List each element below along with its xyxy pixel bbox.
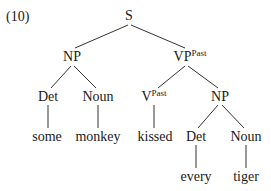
tree-node-np2: NP: [211, 90, 229, 104]
tree-node-w_tiger: tiger: [233, 170, 259, 184]
node-feature-superscript: Past: [191, 48, 206, 58]
tree-node-w_monkey: monkey: [75, 130, 120, 144]
tree-edge: [131, 25, 185, 48]
node-label: some: [32, 129, 62, 144]
node-label: NP: [63, 49, 81, 64]
node-label: monkey: [75, 129, 120, 144]
tree-node-noun2: Noun: [230, 130, 261, 144]
node-label: Noun: [82, 89, 113, 104]
node-label: NP: [211, 89, 229, 104]
node-label: VP: [174, 49, 192, 64]
node-label: tiger: [233, 169, 259, 184]
tree-edge: [51, 66, 71, 88]
node-label: every: [180, 169, 211, 184]
tree-edge: [188, 66, 218, 88]
tree-edge: [75, 25, 128, 48]
node-label: Det: [186, 129, 206, 144]
node-label: Det: [38, 89, 58, 104]
tree-node-w_some: some: [32, 130, 62, 144]
node-label: V: [141, 89, 151, 104]
tree-node-det2: Det: [186, 130, 206, 144]
node-label: Noun: [230, 129, 261, 144]
node-feature-superscript: Past: [152, 88, 167, 98]
tree-node-v: VPast: [141, 90, 166, 105]
tree-edge: [198, 105, 218, 128]
tree-node-noun1: Noun: [82, 90, 113, 104]
tree-edge: [222, 105, 244, 128]
tree-node-vp: VPPast: [174, 50, 207, 65]
tree-edge: [74, 66, 96, 88]
node-label: S: [125, 8, 133, 23]
tree-node-w_every: every: [180, 170, 211, 184]
tree-node-np1: NP: [63, 50, 81, 64]
tree-node-w_kissed: kissed: [138, 130, 173, 144]
node-label: kissed: [138, 129, 173, 144]
tree-node-det1: Det: [38, 90, 58, 104]
tree-node-s: S: [125, 9, 133, 23]
tree-edge: [158, 66, 185, 88]
